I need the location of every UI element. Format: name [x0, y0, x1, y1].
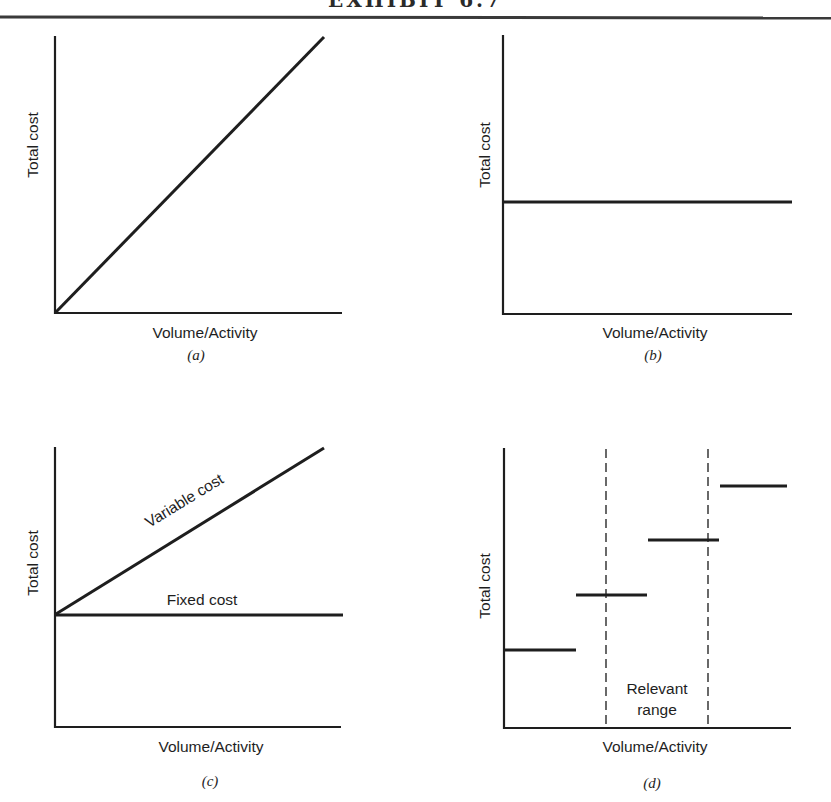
chart-b-ylabel: Total cost [476, 122, 493, 188]
chart-d: Relevant range Total cost Volume/Activit… [476, 448, 791, 792]
chart-c-variable-cost-line [56, 448, 324, 614]
chart-b-xlabel: Volume/Activity [602, 324, 707, 341]
chart-a-axes [55, 36, 342, 313]
chart-c-xlabel: Volume/Activity [158, 738, 263, 755]
chart-a: Total cost Volume/Activity (a) [24, 36, 342, 364]
chart-c-caption: (c) [202, 773, 219, 790]
chart-c-variable-label: Variable cost [142, 470, 227, 531]
chart-b-axes [503, 35, 792, 314]
chart-c-ylabel: Total cost [24, 530, 41, 596]
chart-d-caption: (d) [643, 775, 661, 792]
chart-d-xlabel: Volume/Activity [602, 738, 707, 755]
header-rule [0, 17, 831, 18]
chart-b-caption: (b) [644, 347, 662, 364]
chart-c: Variable cost Fixed cost Total cost Volu… [24, 447, 343, 790]
chart-a-caption: (a) [187, 347, 205, 364]
chart-a-total-cost-line [56, 37, 324, 312]
chart-d-ylabel: Total cost [476, 553, 493, 619]
exhibit-figure: Total cost Volume/Activity (a) Total cos… [0, 0, 831, 802]
chart-d-range-label-1: Relevant [626, 680, 688, 697]
chart-d-range-label-2: range [637, 701, 677, 718]
chart-a-xlabel: Volume/Activity [152, 324, 257, 341]
chart-a-ylabel: Total cost [24, 112, 41, 178]
chart-c-fixed-label: Fixed cost [167, 591, 238, 608]
chart-b: Total cost Volume/Activity (b) [476, 35, 792, 364]
